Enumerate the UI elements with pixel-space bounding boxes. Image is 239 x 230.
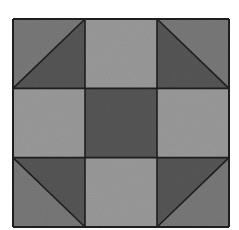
- quilt-cell-r2c1: [85, 158, 157, 227]
- quilt-block: [12, 18, 230, 228]
- quilt-cell-r1c0: [13, 88, 85, 157]
- quilt-cell-r0c1: [85, 19, 157, 88]
- quilt-cell-r1c2: [157, 88, 229, 157]
- quilt-block-graphic: [12, 18, 230, 228]
- quilt-cell-r1c1: [85, 88, 157, 157]
